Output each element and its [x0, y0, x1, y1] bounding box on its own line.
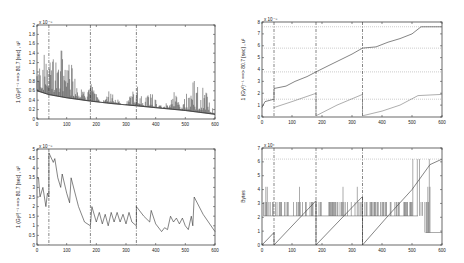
y-tick-label: 6 — [257, 159, 260, 164]
y-axis-label: 1 (Gy²)⁻¹ ==> 80.7 [sec] , u² — [15, 166, 21, 228]
x-tick-label: 200 — [318, 248, 326, 253]
y-tick-label: 2 — [32, 23, 35, 28]
y-exponent-label: x 10⁻⁸ — [39, 144, 53, 149]
x-tick-label: 200 — [318, 120, 326, 125]
x-tick-label: 100 — [288, 248, 296, 253]
y-tick-label: 0.2 — [29, 107, 36, 112]
x-tick-label: 0 — [261, 248, 264, 253]
x-tick-label: 500 — [408, 248, 416, 253]
chart-bottom-right: 010020030040050060001234567x 10⁴Bytes — [232, 131, 464, 263]
plot-frame — [262, 148, 442, 245]
y-tick-label: 2 — [32, 204, 35, 209]
y-tick-label: 2 — [257, 91, 260, 96]
y-tick-label: 6 — [257, 43, 260, 48]
x-tick-label: 300 — [122, 248, 130, 253]
y-tick-label: 3 — [257, 201, 260, 206]
y-exponent-label: x 10⁻⁸ — [264, 17, 278, 22]
chart-top-left: 010020030040050060000.20.40.60.811.21.41… — [0, 0, 232, 131]
y-tick-label: 0 — [257, 243, 260, 248]
y-tick-label: 1.4 — [29, 51, 36, 56]
y-tick-label: 2.5 — [29, 195, 36, 200]
x-tick-label: 500 — [182, 122, 190, 127]
y-tick-label: 1 — [32, 70, 35, 75]
x-tick-label: 400 — [152, 248, 160, 253]
x-tick-label: 400 — [378, 248, 386, 253]
x-tick-label: 400 — [152, 122, 160, 127]
y-axis-label: Bytes — [240, 190, 246, 203]
chart-top-left-svg: 010020030040050060000.20.40.60.811.21.41… — [0, 0, 232, 131]
y-tick-label: 7 — [257, 146, 260, 151]
x-tick-label: 200 — [93, 122, 101, 127]
y-tick-label: 0.4 — [29, 98, 36, 103]
y-tick-label: 1.5 — [29, 214, 36, 219]
x-tick-label: 600 — [438, 120, 446, 125]
series-variance — [37, 153, 215, 232]
y-tick-label: 0.6 — [29, 88, 36, 93]
y-tick-label: 5 — [32, 147, 35, 152]
y-tick-label: 1 — [32, 223, 35, 228]
series-cumulative-bytes — [262, 159, 442, 245]
chart-top-right: 0100200300400500600012345678x 10⁻⁸1 (Gy²… — [232, 0, 464, 131]
y-tick-label: 4.5 — [29, 156, 36, 161]
y-tick-label: 1 — [257, 103, 260, 108]
y-tick-label: 4 — [257, 67, 260, 72]
y-tick-label: 5 — [257, 173, 260, 178]
y-tick-label: 7 — [257, 31, 260, 36]
y-tick-label: 4 — [257, 187, 260, 192]
series-reset-segments — [274, 93, 442, 116]
chart-bottom-left: 010020030040050060000.511.522.533.544.55… — [0, 131, 232, 263]
y-tick-label: 5 — [257, 55, 260, 60]
x-tick-label: 500 — [182, 248, 190, 253]
x-tick-label: 300 — [348, 248, 356, 253]
x-tick-label: 500 — [408, 120, 416, 125]
y-tick-label: 0 — [257, 115, 260, 120]
y-tick-label: 3.5 — [29, 175, 36, 180]
chart-bottom-left-svg: 010020030040050060000.511.522.533.544.55… — [0, 131, 232, 263]
y-tick-label: 1.8 — [29, 32, 36, 37]
y-tick-label: 3 — [32, 185, 35, 190]
y-tick-label: 1 — [257, 229, 260, 234]
x-tick-label: 200 — [93, 248, 101, 253]
series-cumulative — [262, 27, 442, 108]
chart-bottom-right-svg: 010020030040050060001234567x 10⁴Bytes — [232, 131, 464, 263]
x-tick-label: 0 — [36, 122, 39, 127]
y-tick-label: 1.2 — [29, 60, 36, 65]
x-tick-label: 600 — [211, 122, 219, 127]
y-tick-label: 0 — [32, 117, 35, 122]
y-exponent-label: x 10⁻⁸ — [39, 20, 53, 25]
x-tick-label: 100 — [63, 248, 71, 253]
y-axis-label: 1 (Gy²)⁻¹ ==> 80.7 [sec] , u² — [240, 38, 246, 100]
x-tick-label: 100 — [63, 122, 71, 127]
x-tick-label: 300 — [122, 122, 130, 127]
y-tick-label: 1.6 — [29, 41, 36, 46]
y-tick-label: 2 — [257, 215, 260, 220]
chart-top-right-svg: 0100200300400500600012345678x 10⁻⁸1 (Gy²… — [232, 0, 464, 131]
x-tick-label: 600 — [438, 248, 446, 253]
y-axis-label: 1 (Gy²)⁻¹ ==> 80.7 [sec] , u² — [15, 41, 21, 103]
x-tick-label: 100 — [288, 120, 296, 125]
y-tick-label: 0.5 — [29, 233, 36, 238]
y-tick-label: 3 — [257, 79, 260, 84]
x-tick-label: 400 — [378, 120, 386, 125]
y-tick-label: 4 — [32, 166, 35, 171]
x-tick-label: 300 — [348, 120, 356, 125]
x-tick-label: 0 — [261, 120, 264, 125]
y-tick-label: 0 — [32, 243, 35, 248]
y-tick-label: 8 — [257, 20, 260, 25]
y-exponent-label: x 10⁴ — [264, 143, 275, 148]
plot-frame — [37, 149, 215, 245]
x-tick-label: 600 — [211, 248, 219, 253]
series-packet-size — [264, 159, 443, 232]
y-tick-label: 0.8 — [29, 79, 36, 84]
x-tick-label: 0 — [36, 248, 39, 253]
